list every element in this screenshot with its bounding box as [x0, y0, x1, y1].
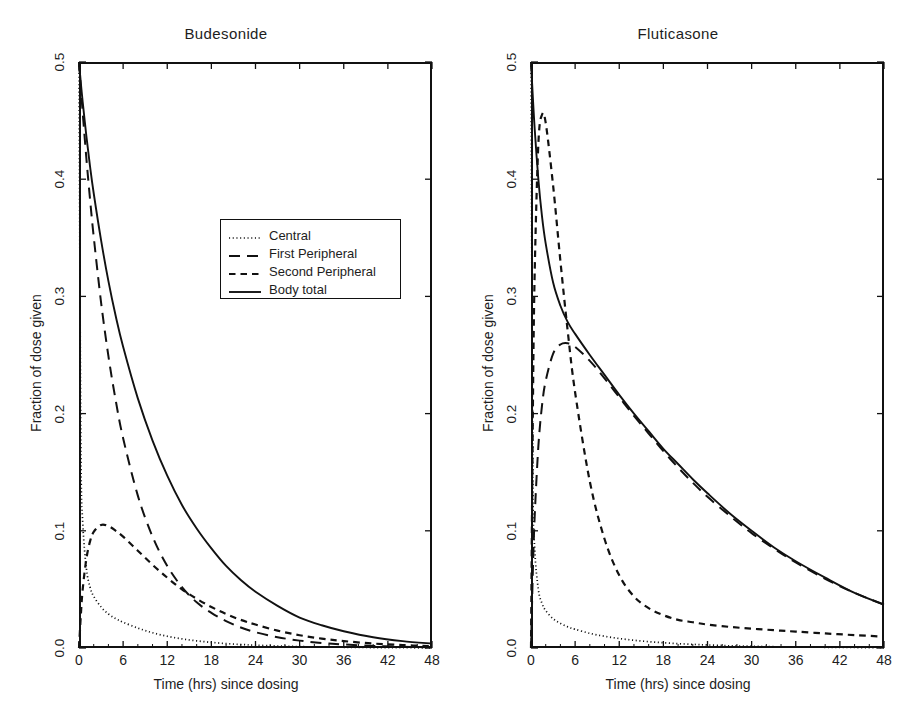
x-tick-label: 48 — [876, 652, 892, 668]
legend-line-sample-icon — [228, 284, 262, 296]
legend-label: First Peripheral — [269, 247, 357, 260]
y-tick-label: 0.1 — [52, 516, 67, 546]
y-tick-label: 0.2 — [504, 399, 519, 429]
y-tick-label: 0.0 — [52, 633, 67, 663]
x-tick-label: 42 — [832, 652, 848, 668]
series-body-total — [79, 62, 432, 644]
series-first-peripheral — [531, 343, 884, 648]
x-tick-label: 36 — [336, 652, 352, 668]
legend-label: Body total — [269, 283, 327, 296]
series-central — [79, 62, 432, 648]
x-tick-label: 18 — [204, 652, 220, 668]
x-axis-tick-labels-budesonide: 0612182430364248 — [79, 652, 432, 674]
legend-item-body-total: Body total — [228, 281, 391, 298]
page-title-budesonide: Budesonide — [0, 25, 452, 42]
y-tick-label: 0.3 — [52, 281, 67, 311]
x-axis-tick-labels-fluticasone: 0612182430364248 — [531, 652, 884, 674]
series-second-peripheral — [79, 525, 432, 648]
y-tick-label: 0.2 — [52, 399, 67, 429]
y-tick-label: 0.5 — [52, 47, 67, 77]
legend-label: Second Peripheral — [269, 265, 376, 278]
legend-item-second-peripheral: Second Peripheral — [228, 263, 391, 280]
x-tick-label: 30 — [744, 652, 760, 668]
x-axis-title-budesonide: Time (hrs) since dosing — [0, 676, 452, 692]
x-tick-label: 12 — [159, 652, 175, 668]
x-tick-label: 12 — [611, 652, 627, 668]
y-tick-label: 0.4 — [52, 164, 67, 194]
x-tick-label: 6 — [119, 652, 127, 668]
x-axis-title-fluticasone: Time (hrs) since dosing — [452, 676, 904, 692]
plot-curves-budesonide — [79, 62, 432, 648]
chart-panel-budesonide: Budesonide 0612182430364248 0.00.10.20.3… — [0, 0, 452, 725]
legend-budesonide: CentralFirst PeripheralSecond Peripheral… — [220, 219, 401, 299]
x-tick-label: 24 — [700, 652, 716, 668]
x-tick-label: 18 — [656, 652, 672, 668]
y-tick-label: 0.3 — [504, 281, 519, 311]
x-tick-label: 36 — [788, 652, 804, 668]
y-axis-tick-labels-fluticasone: 0.00.10.20.30.40.5 — [496, 62, 526, 648]
legend-label: Central — [269, 229, 311, 242]
series-central — [531, 62, 884, 648]
x-tick-label: 0 — [527, 652, 535, 668]
series-first-peripheral — [79, 62, 432, 647]
legend-line-sample-icon — [228, 248, 262, 260]
y-axis-tick-labels-budesonide: 0.00.10.20.30.40.5 — [44, 62, 74, 648]
y-tick-label: 0.1 — [504, 516, 519, 546]
legend-line-sample-icon — [228, 230, 262, 242]
plot-curves-fluticasone — [531, 62, 884, 648]
figure-root: Budesonide 0612182430364248 0.00.10.20.3… — [0, 0, 904, 725]
legend-line-sample-icon — [228, 266, 262, 278]
page-title-fluticasone: Fluticasone — [452, 25, 904, 42]
y-tick-label: 0.4 — [504, 164, 519, 194]
x-tick-label: 0 — [75, 652, 83, 668]
y-axis-title-budesonide: Fraction of dose given — [28, 253, 44, 473]
y-tick-label: 0.0 — [504, 633, 519, 663]
y-tick-label: 0.5 — [504, 47, 519, 77]
series-second-peripheral — [531, 113, 884, 648]
x-tick-label: 6 — [571, 652, 579, 668]
x-tick-label: 30 — [292, 652, 308, 668]
x-tick-label: 48 — [424, 652, 440, 668]
chart-panel-fluticasone: Fluticasone 0612182430364248 0.00.10.20.… — [452, 0, 904, 725]
legend-item-central: Central — [228, 227, 391, 244]
x-tick-label: 42 — [380, 652, 396, 668]
x-tick-label: 24 — [248, 652, 264, 668]
legend-item-first-peripheral: First Peripheral — [228, 245, 391, 262]
y-axis-title-fluticasone: Fraction of dose given — [480, 253, 496, 473]
series-body-total — [531, 62, 884, 605]
